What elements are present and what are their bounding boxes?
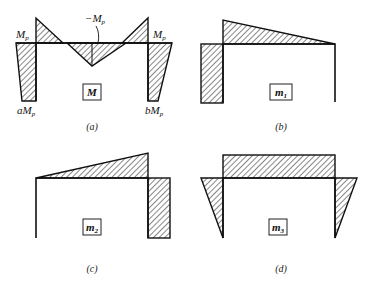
label-right-mp: Mp — [152, 28, 166, 42]
box-label-m: M — [86, 86, 98, 98]
right-column-moment — [148, 43, 172, 101]
mid-v-region — [67, 43, 126, 66]
right-top-triangle — [122, 18, 148, 43]
panel-a: Mp Mp −Mp aMp bMp M (a) — [15, 12, 172, 133]
caption-c: (c) — [86, 263, 98, 275]
moment-diagrams: Mp Mp −Mp aMp bMp M (a) m1 (b) m2 (c) m3… — [0, 0, 374, 290]
label-bmp: bMp — [145, 104, 164, 118]
leader-line — [96, 26, 99, 43]
label-amp: aMp — [17, 104, 36, 118]
caption-b: (b) — [275, 121, 287, 133]
right-column-triangle-d — [335, 178, 357, 238]
right-column-rect-c — [148, 178, 170, 238]
caption-d: (d) — [275, 263, 287, 275]
left-column-rect-b — [201, 44, 223, 103]
left-top-triangle — [36, 18, 63, 43]
caption-a: (a) — [86, 121, 98, 133]
panel-d: m3 (d) — [201, 155, 357, 275]
left-column-moment — [16, 43, 36, 101]
panel-b: m1 (b) — [201, 20, 335, 133]
label-mid-neg-mp: −Mp — [85, 12, 106, 26]
beam-triangle-b — [223, 20, 335, 44]
panel-c: m2 (c) — [36, 153, 170, 275]
left-column-triangle-d — [201, 178, 223, 238]
label-left-mp: Mp — [15, 28, 29, 42]
beam-triangle-c — [36, 153, 148, 178]
beam-rect-d — [223, 155, 335, 178]
